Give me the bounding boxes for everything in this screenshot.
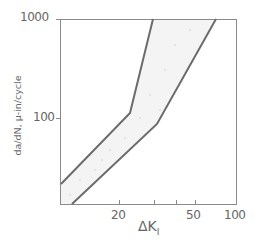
x-tick-label-20: 20	[111, 208, 125, 222]
scatter-band-fill	[61, 19, 216, 204]
x-axis-label: ΔKI	[138, 218, 159, 237]
x-tick-label-100: 100	[224, 208, 245, 222]
y-tick-label-1000: 1000	[20, 10, 49, 24]
y-tick-label-100: 100	[33, 110, 54, 124]
x-axis-label-sub: I	[157, 227, 160, 237]
x-axis-label-main: ΔK	[138, 218, 157, 234]
y-axis-label: da/dN, μ-in/cycle	[12, 51, 23, 181]
x-tick-label-50: 50	[186, 208, 200, 222]
